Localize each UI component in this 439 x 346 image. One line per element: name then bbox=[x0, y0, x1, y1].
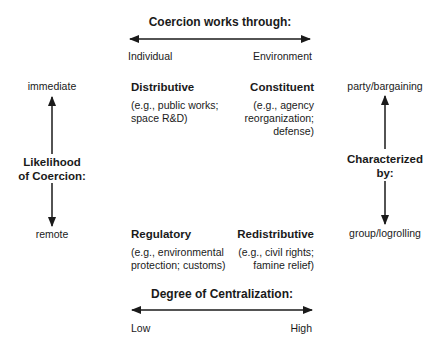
bottom-axis-right-label: High bbox=[262, 322, 312, 334]
left-axis-top-label: immediate bbox=[12, 80, 92, 92]
right-axis-top-label: party/bargaining bbox=[335, 80, 435, 92]
quadrant-example-line2: famine relief) bbox=[214, 259, 314, 272]
left-axis-title-line1: Likelihood bbox=[2, 155, 102, 169]
bottom-axis-left-label: Low bbox=[131, 322, 150, 334]
left-axis-title-line2: of Coercion: bbox=[2, 169, 102, 183]
quadrant-example-line1: (e.g., agency bbox=[222, 99, 314, 112]
quadrant-example-line1: (e.g., public works; bbox=[131, 99, 231, 112]
quadrant-distributive: Distributive (e.g., public works; space … bbox=[131, 81, 231, 125]
quadrant-redistributive: Redistributive (e.g., civil rights; fami… bbox=[214, 228, 314, 272]
left-axis-title: Likelihood of Coercion: bbox=[2, 155, 102, 183]
quadrant-constituent: Constituent (e.g., agency reorganization… bbox=[222, 81, 314, 138]
quadrant-example-line1: (e.g., civil rights; bbox=[214, 246, 314, 259]
top-axis-title: Coercion works through: bbox=[130, 15, 310, 29]
quadrant-title: Constituent bbox=[222, 81, 314, 93]
bottom-axis-title: Degree of Centralization: bbox=[132, 287, 312, 301]
quadrant-example-line2: space R&D) bbox=[131, 112, 231, 125]
top-axis-left-label: Individual bbox=[128, 50, 172, 62]
quadrant-example-line2: reorganization; bbox=[222, 112, 314, 125]
quadrant-title: Distributive bbox=[131, 81, 231, 93]
quadrant-example-line3: defense) bbox=[222, 125, 314, 138]
right-axis-title-line1: Characterized bbox=[335, 152, 435, 166]
right-axis-title: Characterized by: bbox=[335, 152, 435, 180]
quadrant-title: Redistributive bbox=[214, 228, 314, 240]
top-axis-right-label: Environment bbox=[253, 50, 311, 62]
right-axis-title-line2: by: bbox=[335, 166, 435, 180]
left-axis-bottom-label: remote bbox=[12, 228, 92, 240]
right-axis-bottom-label: group/logrolling bbox=[335, 227, 435, 239]
